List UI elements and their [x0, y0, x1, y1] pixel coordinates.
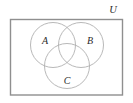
- universe-label: U: [109, 4, 118, 15]
- venn-diagram-figure: U A B C: [0, 0, 133, 103]
- venn-diagram-canvas: U A B C: [0, 0, 133, 103]
- set-label-a: A: [41, 35, 49, 46]
- set-label-c: C: [64, 75, 71, 86]
- set-label-b: B: [87, 35, 93, 46]
